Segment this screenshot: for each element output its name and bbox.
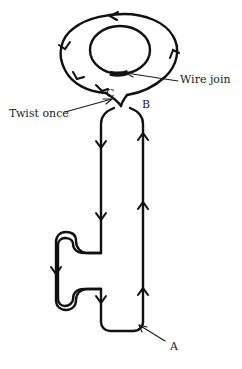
leader-arrow-icon: [139, 325, 165, 341]
key-bit-ward-wire: [56, 232, 101, 310]
inner-loop-path: [90, 26, 150, 74]
wire-join-thick-segment: [110, 72, 128, 74]
flow-arrow-icon: [51, 133, 148, 303]
point-b-label: B: [142, 99, 150, 110]
diagram-canvas: [0, 0, 242, 369]
twist-once-label: Twist once: [9, 108, 69, 119]
point-a-label: A: [170, 341, 178, 352]
wire-key-diagram: Twist once Wire join C B A: [0, 0, 242, 369]
leader-arrow-icon: [65, 99, 112, 112]
wire-join-label: Wire join: [180, 74, 231, 85]
point-c-label: C: [106, 88, 114, 99]
